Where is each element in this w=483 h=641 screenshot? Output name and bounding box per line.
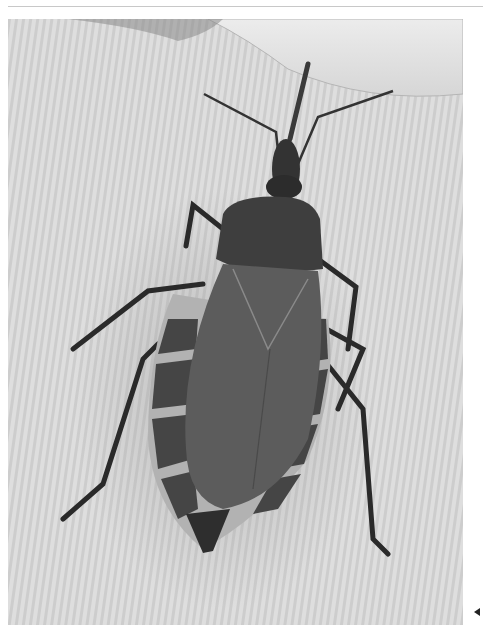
top-separator-line: [8, 6, 483, 7]
pronotum: [216, 197, 323, 272]
photo-illustration: [8, 19, 463, 625]
insect-photo: [8, 19, 463, 625]
previous-arrow-icon[interactable]: [474, 608, 480, 616]
